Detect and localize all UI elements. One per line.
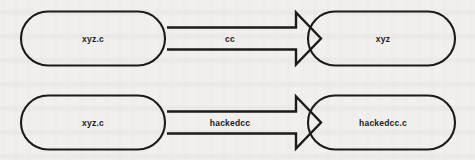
arrow-label-row0: cc [225, 34, 235, 44]
node-label-row1-target: hackedcc.c [359, 118, 407, 128]
arrow-label-row1: hackedcc [210, 118, 250, 128]
compiler-trust-diagram: xyz.c cc xyz xyz.c hackedcc hackedcc.c [0, 0, 475, 160]
node-label-row0-target: xyz [376, 34, 390, 44]
node-label-row0-source: xyz.c [82, 34, 104, 44]
diagram-vector-layer [0, 0, 475, 160]
node-label-row1-source: xyz.c [82, 118, 104, 128]
arrow-row0[interactable] [167, 13, 321, 65]
